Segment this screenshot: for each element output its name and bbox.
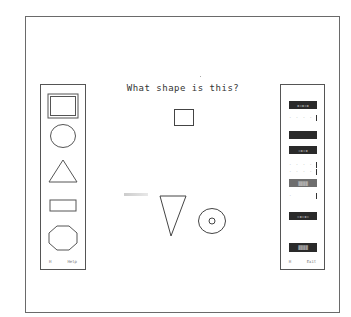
menu-button-2[interactable] — [289, 131, 317, 139]
shape-option-octagon[interactable] — [41, 224, 85, 252]
left-panel-footer: H Help — [41, 259, 85, 264]
target-square-shape — [174, 109, 194, 126]
menu-item-dotted-1[interactable]: · · · · · · — [289, 115, 317, 121]
circle-icon — [49, 123, 77, 149]
rectangle-icon — [49, 199, 77, 212]
faint-indicator-bar — [124, 193, 148, 196]
shape-choices-panel: H Help — [40, 84, 86, 270]
shape-option-circle[interactable] — [41, 122, 85, 150]
help-link[interactable]: Help — [67, 259, 77, 264]
ring-shape — [197, 207, 227, 235]
menu-panel: ▪▫▪▫▪ · · · · · · ▫▪▫▪ · · · · · · · · ·… — [280, 84, 325, 270]
menu-item-dotted-2[interactable]: · · · · · — [289, 162, 317, 168]
menu-item-dotted-3[interactable]: · · · · · — [289, 169, 317, 175]
menu-button-4[interactable]: ▒▒▒▒ — [289, 179, 317, 187]
menu-button-3[interactable]: ▫▪▫▪ — [289, 146, 317, 154]
triangle-icon — [48, 159, 78, 183]
shape-option-square[interactable] — [41, 92, 85, 120]
cursor-artifact — [200, 76, 201, 77]
menu-button-6[interactable]: ▓▓▓▓ — [289, 243, 317, 252]
exit-hotkey: H — [289, 259, 291, 264]
inverted-triangle-shape — [159, 195, 187, 237]
question-title: What shape is this? — [118, 83, 248, 93]
shape-option-triangle[interactable] — [41, 159, 85, 183]
menu-button-5[interactable]: ▫▪▫▪▫ — [289, 212, 317, 220]
square-icon — [47, 93, 79, 119]
menu-item-dotted-4[interactable]: · — [289, 193, 317, 199]
exit-link[interactable]: Exit — [307, 259, 317, 264]
right-panel-footer: H Exit — [281, 259, 324, 264]
octagon-icon — [48, 225, 78, 251]
shape-option-rectangle[interactable] — [41, 198, 85, 212]
menu-button-1[interactable]: ▪▫▪▫▪ — [289, 101, 317, 109]
help-hotkey: H — [49, 259, 51, 264]
